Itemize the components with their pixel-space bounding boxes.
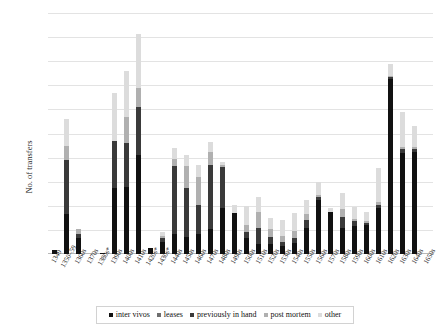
bar-segment	[304, 200, 309, 214]
bar-segment	[244, 225, 249, 232]
bar-segment	[376, 168, 381, 202]
bar-segment	[280, 220, 285, 236]
bar-segment	[172, 148, 177, 159]
bar-segment	[172, 166, 177, 233]
legend-swatch-icon	[264, 313, 268, 317]
bar-column	[193, 13, 205, 254]
chart-legend: inter vivosleasespreviously in handpost …	[96, 306, 354, 324]
bar-segment	[328, 212, 333, 254]
stacked-bar	[364, 212, 369, 254]
legend-label: inter vivos	[116, 311, 150, 319]
legend-item: post mortem	[264, 311, 311, 319]
stacked-bar	[292, 213, 297, 254]
bar-segment	[400, 153, 405, 254]
bar-column	[133, 13, 145, 254]
bar-segment	[208, 152, 213, 165]
bar-segment	[256, 212, 261, 228]
bar-segment	[136, 88, 141, 107]
bar-column	[157, 13, 169, 254]
bar-segment	[412, 152, 417, 254]
bar-column	[384, 13, 396, 254]
legend-swatch-icon	[190, 313, 194, 317]
bar-column	[360, 13, 372, 254]
stacked-bar	[352, 207, 357, 254]
bar-chart: No. of transfers 02040608010012014016018…	[0, 0, 436, 333]
bar-segment	[340, 209, 345, 216]
legend-item: other	[318, 311, 341, 319]
bar-column	[229, 13, 241, 254]
bar-segment	[268, 229, 273, 237]
bar-column	[145, 13, 157, 254]
legend-swatch-icon	[157, 313, 161, 317]
bar-segment	[208, 142, 213, 152]
stacked-bar	[304, 200, 309, 254]
bar-segment	[412, 126, 417, 146]
legend-item: previously in hand	[190, 311, 257, 319]
bar-segment	[112, 93, 117, 141]
bar-segment	[124, 117, 129, 144]
stacked-bar	[112, 93, 117, 254]
bar-segment	[316, 200, 321, 254]
bar-segment	[340, 193, 345, 210]
legend-swatch-icon	[109, 313, 113, 317]
bar-segment	[388, 64, 393, 76]
legend-swatch-icon	[318, 313, 322, 317]
bar-segment	[196, 205, 201, 234]
bar-segment	[352, 207, 357, 219]
legend-item: leases	[157, 311, 183, 319]
bar-segment	[184, 166, 189, 188]
stacked-bar	[64, 119, 69, 254]
stacked-bar	[388, 64, 393, 254]
bar-segment	[364, 212, 369, 222]
bar-column	[408, 13, 420, 254]
legend-label: other	[325, 311, 341, 319]
bar-segment	[124, 71, 129, 117]
bar-column	[264, 13, 276, 254]
stacked-bar	[400, 112, 405, 254]
bar-segment	[220, 167, 225, 208]
bar-segment	[400, 112, 405, 147]
stacked-bar	[124, 71, 129, 254]
stacked-bar	[196, 165, 201, 254]
bar-segment	[64, 146, 69, 160]
bar-column	[288, 13, 300, 254]
stacked-bar	[316, 182, 321, 254]
bar-segment	[292, 231, 297, 238]
bar-segment	[196, 165, 201, 177]
bar-segment	[64, 119, 69, 146]
bar-segment	[292, 213, 297, 231]
bar-segment	[112, 141, 117, 188]
stacked-bar	[208, 142, 213, 254]
bar-column	[348, 13, 360, 254]
bar-segment	[124, 187, 129, 254]
y-axis-title: No. of transfers	[24, 140, 34, 193]
bar-column	[181, 13, 193, 254]
bar-column	[97, 13, 109, 254]
bar-segment	[232, 205, 237, 213]
bar-segment	[316, 182, 321, 195]
bar-column	[109, 13, 121, 254]
bar-column	[49, 13, 61, 254]
bar-segment	[208, 165, 213, 229]
bar-segment	[244, 206, 249, 225]
stacked-bar	[376, 168, 381, 254]
bar-segment	[256, 228, 261, 245]
bar-column	[217, 13, 229, 254]
bar-column	[252, 13, 264, 254]
bar-series-container	[48, 13, 433, 254]
legend-label: leases	[164, 311, 183, 319]
bar-segment	[256, 197, 261, 211]
bar-column	[241, 13, 253, 254]
bar-segment	[172, 159, 177, 166]
stacked-bar	[220, 162, 225, 254]
stacked-bar	[412, 126, 417, 254]
bar-segment	[196, 177, 201, 205]
stacked-bar	[340, 193, 345, 254]
bar-segment	[136, 155, 141, 254]
bar-segment	[136, 34, 141, 88]
bar-segment	[376, 208, 381, 254]
bar-column	[276, 13, 288, 254]
stacked-bar	[136, 34, 141, 254]
stacked-bar	[256, 197, 261, 254]
bar-column	[396, 13, 408, 254]
